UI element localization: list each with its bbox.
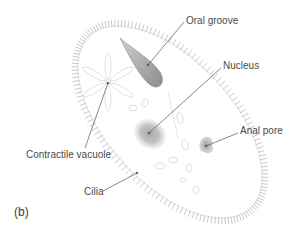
panel-label: (b) bbox=[14, 206, 29, 218]
label-oral-groove: Oral groove bbox=[186, 16, 238, 26]
cell-body bbox=[36, 0, 298, 235]
paramecium-diagram bbox=[0, 0, 298, 235]
cell-membrane bbox=[44, 0, 296, 235]
label-anal-pore: Anal pore bbox=[240, 126, 283, 136]
label-nucleus: Nucleus bbox=[223, 61, 259, 71]
label-contractile-vacuole: Contractile vacuole bbox=[26, 150, 111, 160]
leader-cilia bbox=[103, 173, 137, 191]
label-cilia: Cilia bbox=[84, 187, 103, 197]
